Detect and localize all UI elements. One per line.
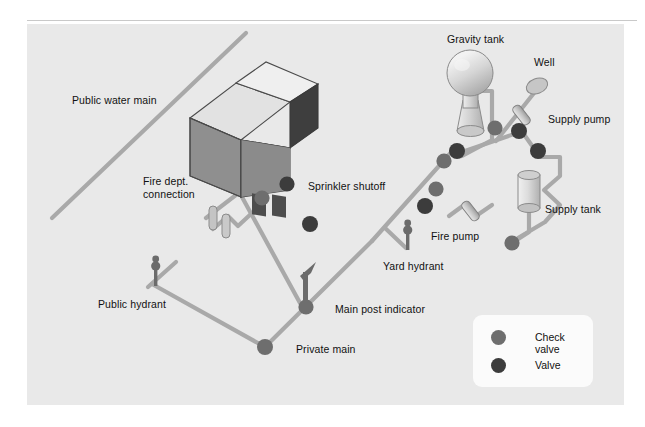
valves <box>279 123 546 232</box>
supply-tank <box>518 171 540 213</box>
check-valve <box>254 190 269 205</box>
legend-label-valve: Valve <box>535 359 561 371</box>
label-yard-hydrant: Yard hydrant <box>383 260 444 272</box>
gravity-tank-highlight <box>454 59 470 71</box>
label-sprinkler-shutoff: Sprinkler shutoff <box>308 180 385 192</box>
fdc-riser-1 <box>209 206 217 230</box>
check-valve <box>487 120 502 135</box>
yard-hydrant-stem <box>406 232 409 250</box>
yard-hydrant-cap <box>404 220 411 227</box>
valve <box>449 143 465 159</box>
label-public-hydrant: Public hydrant <box>98 298 166 310</box>
check-valve <box>298 299 313 314</box>
fdc-pipe <box>213 213 252 229</box>
valve <box>511 123 527 139</box>
building-service-lead <box>236 186 300 303</box>
valve <box>279 176 294 191</box>
valve <box>302 216 318 232</box>
label-gravity-tank: Gravity tank <box>447 33 504 45</box>
supply-tank-top <box>518 171 540 180</box>
label-fire-pump: Fire pump <box>431 230 479 242</box>
check-valve <box>257 339 273 355</box>
gravity-tank-sphere <box>447 50 493 96</box>
legend: Check valve Valve <box>473 315 593 387</box>
gravity-tank <box>447 50 493 137</box>
fire-pump <box>460 200 481 223</box>
label-private-main: Private main <box>296 343 356 355</box>
gravity-tank-stand-base <box>457 126 484 137</box>
valve <box>530 143 546 159</box>
fire-pump-body <box>460 200 481 223</box>
public-hydrant-barrel <box>151 261 160 270</box>
legend-label-check-valve: Check valve <box>535 331 565 355</box>
label-main-post-indicator: Main post indicator <box>335 303 425 315</box>
label-well: Well <box>534 56 555 68</box>
yard-hydrant-barrel <box>403 225 412 234</box>
valve-swatch <box>491 358 506 373</box>
supply-tank-bottom <box>518 204 540 213</box>
building <box>190 62 318 218</box>
check-valve <box>428 181 443 196</box>
well-opening <box>524 75 550 97</box>
label-supply-pump: Supply pump <box>548 113 610 125</box>
fdc-riser-2 <box>222 214 230 238</box>
yard-hydrant-branch <box>385 228 406 248</box>
label-fire-dept-connection-line1: Fire dept. <box>143 175 188 187</box>
label-supply-tank: Supply tank <box>545 203 601 215</box>
label-public-water-main: Public water main <box>72 94 157 106</box>
public-hydrant-stem <box>154 268 157 286</box>
well <box>524 75 550 97</box>
check-valve <box>504 235 519 250</box>
label-fire-dept-connection-line2: connection <box>143 188 195 200</box>
private-main-riser <box>265 241 372 347</box>
check-valve <box>436 153 451 168</box>
check-valve-swatch <box>491 330 506 345</box>
building-window-2 <box>272 195 286 218</box>
public-hydrant-cap <box>152 256 159 263</box>
valve <box>417 198 433 214</box>
private-main-pipe <box>152 284 265 347</box>
